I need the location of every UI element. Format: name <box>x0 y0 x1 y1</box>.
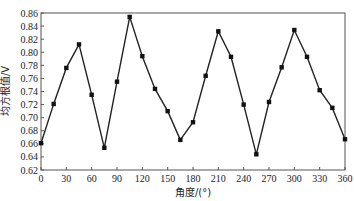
y-tick-label: 0.68 <box>21 125 39 136</box>
data-point-marker <box>140 54 144 58</box>
data-point-marker <box>165 109 169 113</box>
data-point-marker <box>102 146 106 150</box>
data-point-marker <box>64 66 68 70</box>
data-point-marker <box>153 87 157 91</box>
y-tick-label: 0.78 <box>21 60 39 71</box>
y-tick-label: 0.84 <box>21 21 39 32</box>
y-tick-label: 0.76 <box>21 73 39 84</box>
x-tick-label: 180 <box>186 173 201 184</box>
x-tick-label: 240 <box>236 173 251 184</box>
x-tick-label: 360 <box>338 173 353 184</box>
x-tick-label: 0 <box>39 173 44 184</box>
data-point-marker <box>254 152 258 156</box>
y-axis: 0.620.640.660.680.700.720.740.760.780.80… <box>21 8 45 176</box>
y-tick-label: 0.62 <box>21 165 39 176</box>
data-point-marker <box>178 138 182 142</box>
data-point-marker <box>317 88 321 92</box>
data-point-marker <box>89 93 93 97</box>
data-point-marker <box>305 55 309 59</box>
data-point-marker <box>267 100 271 104</box>
data-point-marker <box>343 137 347 141</box>
x-tick-label: 120 <box>135 173 150 184</box>
data-point-marker <box>191 120 195 124</box>
x-tick-label: 330 <box>312 173 327 184</box>
y-tick-label: 0.64 <box>21 151 39 162</box>
y-axis-title: 均方根值/V <box>0 66 11 116</box>
data-point-marker <box>279 65 283 69</box>
x-tick-label: 300 <box>287 173 302 184</box>
data-point-marker <box>216 29 220 33</box>
y-tick-label: 0.86 <box>21 8 39 19</box>
data-point-marker <box>51 102 55 106</box>
line-chart: 0.620.640.660.680.700.720.740.760.780.80… <box>0 0 354 201</box>
data-point-marker <box>115 79 119 83</box>
plot-area <box>41 13 345 170</box>
data-point-marker <box>127 15 131 19</box>
data-point-marker <box>39 141 43 145</box>
y-tick-label: 0.82 <box>21 34 39 45</box>
y-tick-label: 0.70 <box>21 112 39 123</box>
x-tick-label: 150 <box>160 173 175 184</box>
data-point-marker <box>229 55 233 59</box>
x-axis-title: 角度/(°) <box>175 186 211 198</box>
data-point-marker <box>292 28 296 32</box>
data-point-marker <box>330 106 334 110</box>
data-point-marker <box>77 42 81 46</box>
x-tick-label: 90 <box>112 173 122 184</box>
y-tick-label: 0.80 <box>21 47 39 58</box>
y-tick-label: 0.72 <box>21 99 39 110</box>
x-tick-label: 30 <box>61 173 71 184</box>
y-tick-label: 0.66 <box>21 138 39 149</box>
data-point-marker <box>241 102 245 106</box>
x-tick-label: 270 <box>262 173 277 184</box>
y-tick-label: 0.74 <box>21 86 39 97</box>
x-tick-label: 210 <box>211 173 226 184</box>
x-tick-label: 60 <box>87 173 97 184</box>
data-point-marker <box>203 74 207 78</box>
